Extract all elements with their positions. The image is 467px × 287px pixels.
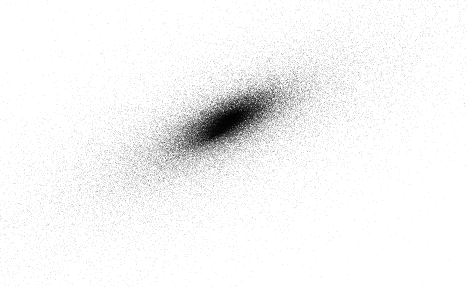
scatter-plot-canvas xyxy=(0,0,467,287)
galaxy-scatter-figure xyxy=(0,0,467,287)
